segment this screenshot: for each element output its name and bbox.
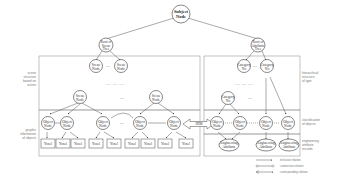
svg-text:… … …: … … … bbox=[235, 80, 253, 86]
svg-text:Yosel: Yosel bbox=[161, 142, 169, 146]
ellipsis-row: … … … bbox=[106, 80, 124, 86]
svg-text:Node: Node bbox=[236, 124, 244, 128]
svg-text:No: No bbox=[226, 99, 231, 103]
object-node[interactable]: ObjectNode bbox=[42, 117, 55, 130]
legend-inclusive: inclusive relation bbox=[256, 158, 301, 162]
category-node[interactable]: CategoryNo bbox=[221, 92, 234, 105]
label-graphic-information: graphic information of objects bbox=[20, 128, 36, 140]
svg-text:of type: of type bbox=[302, 79, 312, 83]
svg-text:Yosel: Yosel bbox=[74, 142, 82, 146]
svg-text:inclusive relation: inclusive relation bbox=[280, 158, 301, 162]
svg-text:No: No bbox=[265, 67, 270, 71]
svg-text:records: records bbox=[302, 147, 313, 151]
svg-text:Node: Node bbox=[213, 124, 221, 128]
yosel-box[interactable]: Yosel bbox=[41, 139, 55, 148]
object-node[interactable]: ObjectNode bbox=[97, 117, 110, 130]
svg-text:Node: Node bbox=[44, 124, 52, 128]
attribute-tree-root-node[interactable]: Root of Attribute Tree bbox=[251, 38, 265, 52]
object-node[interactable]: ObjectNode bbox=[234, 117, 247, 130]
svg-text:Attribute: Attribute bbox=[223, 145, 236, 149]
scene-tree-root-node[interactable]: Root of Scene Tree bbox=[99, 38, 113, 52]
svg-text:octree: octree bbox=[27, 83, 36, 87]
scene-node[interactable]: Scene Node bbox=[150, 91, 163, 104]
svg-text:Node: Node bbox=[92, 67, 100, 71]
legend: inclusive relation connection relation c… bbox=[256, 158, 308, 174]
svg-text:Node: Node bbox=[117, 67, 125, 71]
svg-text:No: No bbox=[242, 67, 247, 71]
label-scene-structure: scene structure based on octree bbox=[23, 71, 36, 87]
svg-text:Node: Node bbox=[284, 124, 292, 128]
scene-node[interactable]: Scene Node bbox=[74, 91, 87, 104]
svg-text:corresponding relation: corresponding relation bbox=[280, 170, 308, 174]
svg-text:Tree: Tree bbox=[103, 47, 110, 51]
yosel-box[interactable]: Yosel bbox=[71, 139, 85, 148]
engineering-attribute-node[interactable]: EngineeringAttribute bbox=[219, 139, 239, 151]
svg-text:Yosel: Yosel bbox=[59, 142, 67, 146]
yosel-box[interactable]: Yosel bbox=[89, 139, 103, 148]
subject-node[interactable]: Subject Node bbox=[172, 5, 190, 23]
corresponding-bridge-arrow: IIIM bbox=[183, 119, 214, 129]
svg-text:...: ... bbox=[106, 62, 110, 68]
legend-corresponding: corresponding relation bbox=[256, 170, 308, 174]
svg-text:Attribute: Attribute bbox=[283, 145, 296, 149]
yosel-box[interactable]: Yosel bbox=[56, 139, 70, 148]
svg-text:Node: Node bbox=[262, 124, 270, 128]
yosel-box[interactable]: Yosel bbox=[158, 139, 172, 148]
yosel-box[interactable]: Yosel bbox=[141, 139, 155, 148]
category-node[interactable]: CategoryNo bbox=[260, 60, 273, 73]
bridge-label: IIIM bbox=[196, 122, 204, 126]
object-node[interactable]: ObjectNode bbox=[134, 117, 147, 130]
scene-attribute-tree-diagram: IIIM Subject Node Root of Scene Tree Roo… bbox=[0, 0, 338, 185]
engineering-attribute-node[interactable]: EngineeringAttribute bbox=[256, 139, 276, 151]
svg-text:Node: Node bbox=[136, 124, 144, 128]
object-node[interactable]: ObjectNode bbox=[168, 117, 181, 130]
object-node[interactable]: ObjectNode bbox=[282, 117, 295, 130]
svg-text:Attribute: Attribute bbox=[260, 145, 273, 149]
svg-text:Yosel: Yosel bbox=[92, 142, 100, 146]
object-node[interactable]: ObjectNode bbox=[61, 117, 74, 130]
category-node[interactable]: CategoryNo bbox=[237, 60, 250, 73]
scene-node[interactable]: Scene Node bbox=[115, 60, 128, 73]
svg-text:...: ... bbox=[120, 119, 124, 125]
svg-text:Yosel: Yosel bbox=[128, 142, 136, 146]
svg-text:Node: Node bbox=[152, 98, 160, 102]
object-node[interactable]: ObjectNode bbox=[211, 117, 224, 130]
label-engineering-records: engineering attribute records bbox=[302, 139, 319, 151]
object-node[interactable]: ObjectNode bbox=[260, 117, 273, 130]
label-hierarchical-structure: hierarchical structure of type bbox=[302, 71, 319, 83]
scene-node[interactable]: Scene Node bbox=[90, 60, 103, 73]
svg-text:connection relation: connection relation bbox=[280, 164, 304, 168]
svg-text:...: ... bbox=[120, 94, 124, 100]
svg-text:Node: Node bbox=[63, 124, 71, 128]
svg-text:Yosel: Yosel bbox=[44, 142, 52, 146]
legend-connection: connection relation bbox=[256, 164, 304, 168]
svg-text:of objects: of objects bbox=[302, 122, 316, 126]
svg-text:...: ... bbox=[253, 62, 257, 68]
svg-text:...: ... bbox=[248, 94, 252, 100]
svg-text:Yosel: Yosel bbox=[182, 142, 190, 146]
svg-text:Node: Node bbox=[176, 14, 186, 19]
svg-text:Node: Node bbox=[99, 124, 107, 128]
yosel-box[interactable]: Yosel bbox=[179, 139, 193, 148]
svg-text:Yosel: Yosel bbox=[144, 142, 152, 146]
yosel-box[interactable]: Yosel bbox=[107, 139, 121, 148]
yosel-box[interactable]: Yosel bbox=[125, 139, 139, 148]
svg-text:of objects: of objects bbox=[22, 136, 36, 140]
svg-text:Node: Node bbox=[170, 124, 178, 128]
svg-text:Node: Node bbox=[76, 98, 84, 102]
svg-text:Tree: Tree bbox=[255, 47, 262, 51]
label-classification: classification of objects bbox=[302, 118, 320, 126]
engineering-attribute-node[interactable]: EngineeringAttribute bbox=[279, 139, 299, 151]
svg-text:Yosel: Yosel bbox=[110, 142, 118, 146]
